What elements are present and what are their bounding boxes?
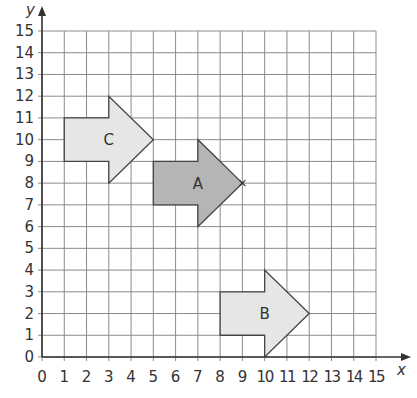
x-tick-label: 4 bbox=[126, 368, 136, 386]
y-tick-label: 6 bbox=[24, 218, 34, 236]
x-tick-label: 13 bbox=[323, 368, 340, 386]
x-tick-label: 3 bbox=[104, 368, 114, 386]
x-tick-label: 12 bbox=[301, 368, 318, 386]
coordinate-grid-diagram: xy01234567891011121314150123456789101112… bbox=[0, 0, 417, 398]
y-tick-label: 10 bbox=[15, 131, 34, 149]
y-tick-label: 4 bbox=[24, 261, 34, 279]
x-axis-arrow-icon bbox=[401, 353, 411, 361]
y-tick-label: 11 bbox=[15, 109, 34, 127]
y-tick-label: 7 bbox=[24, 196, 34, 214]
y-axis-label: y bbox=[25, 1, 36, 19]
y-axis-arrow-icon bbox=[38, 6, 46, 16]
shape-label-b: B bbox=[260, 305, 270, 323]
x-tick-label: 15 bbox=[368, 368, 385, 386]
x-axis-label: x bbox=[396, 361, 406, 379]
y-tick-label: 0 bbox=[24, 348, 34, 366]
y-tick-label: 2 bbox=[24, 305, 34, 323]
x-tick-label: 10 bbox=[257, 368, 274, 386]
x-tick-label: 9 bbox=[238, 368, 248, 386]
y-tick-label: 5 bbox=[24, 239, 34, 257]
y-tick-label: 14 bbox=[15, 44, 34, 62]
y-tick-label: 15 bbox=[15, 22, 34, 40]
x-tick-label: 5 bbox=[149, 368, 159, 386]
y-tick-label: 3 bbox=[24, 283, 34, 301]
x-tick-label: 8 bbox=[215, 368, 225, 386]
x-tick-label: 6 bbox=[171, 368, 181, 386]
plot-area: xy01234567891011121314150123456789101112… bbox=[0, 0, 417, 398]
shape-label-a: A bbox=[193, 175, 204, 193]
x-tick-label: 7 bbox=[193, 368, 203, 386]
x-tick-label: 1 bbox=[59, 368, 69, 386]
x-tick-label: 11 bbox=[279, 368, 296, 386]
x-tick-label: 2 bbox=[82, 368, 92, 386]
x-tick-label: 0 bbox=[37, 368, 47, 386]
y-tick-label: 1 bbox=[24, 326, 34, 344]
x-tick-label: 14 bbox=[346, 368, 363, 386]
y-tick-label: 13 bbox=[15, 65, 34, 83]
y-tick-label: 12 bbox=[15, 87, 34, 105]
y-tick-label: 8 bbox=[24, 174, 34, 192]
shape-label-c: C bbox=[104, 131, 114, 149]
y-tick-label: 9 bbox=[24, 152, 34, 170]
